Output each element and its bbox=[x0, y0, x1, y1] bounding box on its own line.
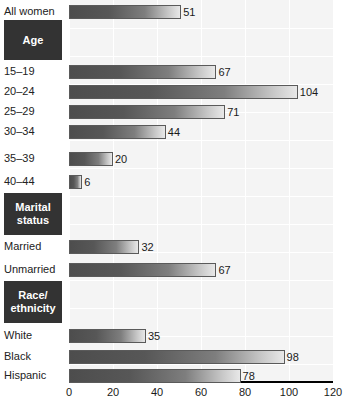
chart-row: Black98 bbox=[0, 347, 353, 367]
bar-container bbox=[69, 350, 285, 364]
bar-container bbox=[69, 5, 181, 19]
bar-value-label: 98 bbox=[287, 351, 299, 364]
bar bbox=[69, 369, 241, 383]
grid-line-horizontal bbox=[69, 56, 333, 57]
bar bbox=[69, 263, 216, 277]
bar-container bbox=[69, 240, 139, 254]
grid-line-horizontal bbox=[69, 308, 333, 309]
chart-row: White35 bbox=[0, 326, 353, 346]
bar-container bbox=[69, 329, 146, 343]
bar-value-label: 6 bbox=[84, 176, 90, 189]
chart-row: 30–3444 bbox=[0, 122, 353, 142]
bar bbox=[69, 350, 285, 364]
bar-container bbox=[69, 369, 241, 383]
bar bbox=[69, 105, 225, 119]
bar bbox=[69, 125, 166, 139]
chart-row: 15–1967 bbox=[0, 62, 353, 82]
row-category-label: 40–44 bbox=[4, 174, 66, 189]
bar bbox=[69, 152, 113, 166]
grid-line-horizontal bbox=[69, 28, 333, 29]
chart-row: Hispanic78 bbox=[0, 366, 353, 386]
row-category-label: White bbox=[4, 328, 66, 343]
x-tick-label: 100 bbox=[280, 386, 298, 398]
x-tick-label: 80 bbox=[239, 386, 251, 398]
group-header-box: Race/ethnicity bbox=[4, 281, 62, 323]
chart-row: 20–24104 bbox=[0, 82, 353, 102]
bar-container bbox=[69, 105, 225, 119]
bar bbox=[69, 240, 139, 254]
bar bbox=[69, 65, 216, 79]
bar-container bbox=[69, 175, 82, 189]
grid-line-horizontal bbox=[69, 224, 333, 225]
bar-container bbox=[69, 65, 216, 79]
bar-value-label: 32 bbox=[141, 241, 153, 254]
row-category-label: 30–34 bbox=[4, 124, 66, 139]
row-category-label: Unmarried bbox=[4, 262, 66, 277]
chart-row: Married32 bbox=[0, 237, 353, 257]
chart-row: Unmarried67 bbox=[0, 260, 353, 280]
row-category-label: Black bbox=[4, 349, 66, 364]
bar-container bbox=[69, 152, 113, 166]
bar bbox=[69, 175, 82, 189]
row-category-label: 35–39 bbox=[4, 151, 66, 166]
x-tick-label: 20 bbox=[107, 386, 119, 398]
bar-value-label: 67 bbox=[218, 264, 230, 277]
chart-row: All women51 bbox=[0, 2, 353, 22]
bar-chart: All women51Age15–196720–2410425–297130–3… bbox=[0, 0, 353, 404]
group-header-box: Age bbox=[4, 20, 62, 60]
row-category-label: 15–19 bbox=[4, 64, 66, 79]
bar-value-label: 51 bbox=[183, 6, 195, 19]
chart-row: 25–2971 bbox=[0, 102, 353, 122]
bar-container bbox=[69, 85, 298, 99]
bar bbox=[69, 85, 298, 99]
bar-value-label: 78 bbox=[243, 370, 255, 383]
group-header-box: Maritalstatus bbox=[4, 193, 62, 235]
chart-row: 40–446 bbox=[0, 172, 353, 192]
grid-line-horizontal bbox=[69, 280, 333, 281]
bar-container bbox=[69, 263, 216, 277]
bar bbox=[69, 5, 181, 19]
bar-container bbox=[69, 125, 166, 139]
bar-value-label: 35 bbox=[148, 330, 160, 343]
bar bbox=[69, 329, 146, 343]
bar-value-label: 67 bbox=[218, 66, 230, 79]
bar-value-label: 20 bbox=[115, 153, 127, 166]
row-category-label: Married bbox=[4, 239, 66, 254]
x-tick-label: 60 bbox=[195, 386, 207, 398]
x-tick-label: 120 bbox=[324, 386, 342, 398]
group-header-label: Maritalstatus bbox=[15, 201, 50, 227]
group-header-label: Race/ethnicity bbox=[10, 289, 55, 315]
x-tick-label: 40 bbox=[151, 386, 163, 398]
group-header-label: Age bbox=[23, 34, 44, 47]
row-category-label: 25–29 bbox=[4, 104, 66, 119]
row-category-label: 20–24 bbox=[4, 84, 66, 99]
bar-value-label: 104 bbox=[300, 86, 318, 99]
bar-value-label: 71 bbox=[227, 106, 239, 119]
row-category-label: Hispanic bbox=[4, 368, 66, 383]
bar-value-label: 44 bbox=[168, 126, 180, 139]
x-tick-label: 0 bbox=[66, 386, 72, 398]
row-category-label: All women bbox=[4, 4, 66, 19]
grid-line-horizontal bbox=[69, 196, 333, 197]
chart-row: 35–3920 bbox=[0, 149, 353, 169]
